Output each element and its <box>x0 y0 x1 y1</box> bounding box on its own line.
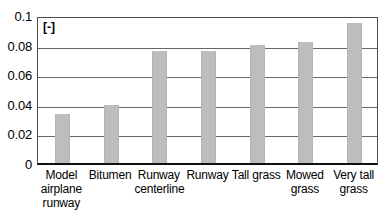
x-tick-label-line: Runway <box>134 168 183 182</box>
y-tick-label: 0.02 <box>7 128 32 141</box>
x-tick-label-line: Runway <box>183 168 232 182</box>
y-tick-label: 0.04 <box>7 99 32 112</box>
x-tick-label-line: runway <box>37 196 86 210</box>
y-tick-label: 0.1 <box>15 10 32 23</box>
x-tick-label: Tall grass <box>232 168 281 182</box>
x-tick-label: Modelairplanerunway <box>37 168 86 210</box>
x-tick-label-line: grass <box>329 182 378 196</box>
bar <box>250 45 265 163</box>
x-tick-label-line: Model <box>37 168 86 182</box>
x-tick-label-line: centerline <box>134 182 183 196</box>
bar <box>55 114 70 163</box>
bar <box>201 51 216 163</box>
x-tick-label-line: Mowed <box>281 168 330 182</box>
y-tick-label: 0.08 <box>7 40 32 53</box>
x-tick-label: Bitumen <box>86 168 135 182</box>
x-tick-label: Runwaycenterline <box>134 168 183 196</box>
y-tick-label: 0 <box>25 158 32 171</box>
bars-layer <box>38 18 377 163</box>
x-tick-label: Runway <box>183 168 232 182</box>
x-tick-label: Very tallgrass <box>329 168 378 196</box>
bar-chart-figure: 00.020.040.060.080.1 [-] Modelairplaneru… <box>0 0 385 216</box>
plot-area: [-] <box>37 17 378 165</box>
y-axis: 00.020.040.060.080.1 <box>0 0 36 216</box>
x-tick-label-line: airplane <box>37 182 86 196</box>
bar <box>298 42 313 163</box>
x-tick-label: Mowedgrass <box>281 168 330 196</box>
x-axis: ModelairplanerunwayBitumenRunwaycenterli… <box>37 168 378 216</box>
x-tick-label-line: Bitumen <box>86 168 135 182</box>
bar <box>347 23 362 163</box>
y-tick-label: 0.06 <box>7 69 32 82</box>
x-tick-label-line: Tall grass <box>232 168 281 182</box>
x-tick-label-line: Very tall <box>329 168 378 182</box>
bar <box>104 105 119 163</box>
x-tick-label-line: grass <box>281 182 330 196</box>
bar <box>152 51 167 163</box>
